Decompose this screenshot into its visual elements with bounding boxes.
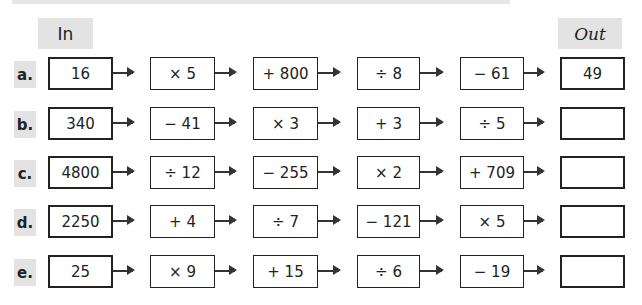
operation-box: ÷ 12 <box>150 156 215 189</box>
output-box[interactable] <box>560 107 625 140</box>
right-arrow-icon <box>215 270 235 272</box>
input-box: 4800 <box>48 156 113 189</box>
right-arrow-icon <box>215 72 235 74</box>
right-arrow-icon <box>420 171 442 173</box>
right-arrow-icon <box>524 72 543 74</box>
output-box[interactable]: 49 <box>560 57 625 90</box>
operation-box: + 3 <box>357 107 420 140</box>
operation-box: × 9 <box>150 255 215 288</box>
right-arrow-icon <box>524 220 543 222</box>
right-arrow-icon <box>215 220 235 222</box>
operation-box: ÷ 7 <box>253 205 318 238</box>
row-label: c. <box>14 160 36 187</box>
row-label: d. <box>14 209 36 236</box>
right-arrow-icon <box>420 220 442 222</box>
operation-box: − 41 <box>150 107 215 140</box>
operation-box: + 15 <box>253 255 318 288</box>
function-machine-row-e: e. 25 × 9 + 15 ÷ 6 − 19 <box>0 255 642 293</box>
output-box[interactable] <box>560 205 625 238</box>
right-arrow-icon <box>113 72 133 74</box>
operation-box: − 19 <box>460 255 524 288</box>
function-machine-row-d: d. 2250 + 4 ÷ 7 − 121 × 5 <box>0 205 642 243</box>
input-box: 2250 <box>48 205 113 238</box>
operation-box: ÷ 8 <box>357 57 420 90</box>
operation-box: × 2 <box>357 156 420 189</box>
right-arrow-icon <box>420 270 442 272</box>
operation-box: − 61 <box>460 57 524 90</box>
right-arrow-icon <box>524 122 543 124</box>
in-header: In <box>38 18 93 49</box>
operation-box: + 4 <box>150 205 215 238</box>
right-arrow-icon <box>113 270 133 272</box>
right-arrow-icon <box>318 270 339 272</box>
function-machine-row-b: b. 340 − 41 × 3 + 3 ÷ 5 <box>0 107 642 145</box>
row-label: b. <box>14 111 36 138</box>
operation-box: + 800 <box>253 57 318 90</box>
right-arrow-icon <box>524 171 543 173</box>
right-arrow-icon <box>113 220 133 222</box>
row-label: a. <box>14 61 36 88</box>
function-machine-row-c: c. 4800 ÷ 12 − 255 × 2 + 709 <box>0 156 642 194</box>
right-arrow-icon <box>318 122 339 124</box>
row-label: e. <box>14 259 36 286</box>
output-box[interactable] <box>560 156 625 189</box>
right-arrow-icon <box>113 122 133 124</box>
right-arrow-icon <box>524 270 543 272</box>
output-box[interactable] <box>560 255 625 288</box>
operation-box: ÷ 5 <box>460 107 524 140</box>
right-arrow-icon <box>113 171 133 173</box>
right-arrow-icon <box>420 72 442 74</box>
operation-box: − 255 <box>253 156 318 189</box>
input-box: 25 <box>48 255 113 288</box>
operation-box: × 5 <box>460 205 524 238</box>
operation-box: + 709 <box>460 156 524 189</box>
right-arrow-icon <box>318 72 339 74</box>
input-box: 340 <box>48 107 113 140</box>
operation-box: ÷ 6 <box>357 255 420 288</box>
operation-box: − 121 <box>357 205 420 238</box>
out-header: Out <box>558 18 622 49</box>
input-box: 16 <box>48 57 113 90</box>
right-arrow-icon <box>318 220 339 222</box>
right-arrow-icon <box>215 171 235 173</box>
right-arrow-icon <box>215 122 235 124</box>
top-instruction-bar <box>12 0 510 4</box>
right-arrow-icon <box>420 122 442 124</box>
right-arrow-icon <box>318 171 339 173</box>
operation-box: × 3 <box>253 107 318 140</box>
operation-box: × 5 <box>150 57 215 90</box>
function-machine-row-a: a. 16 × 5 + 800 ÷ 8 − 61 49 <box>0 57 642 95</box>
